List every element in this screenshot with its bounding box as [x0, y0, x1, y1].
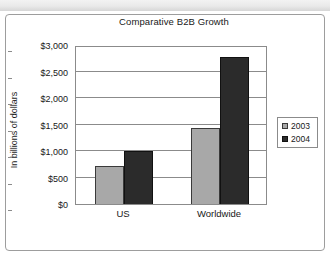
y-axis-tick-label: $0 [12, 200, 68, 210]
y-axis-tick-label: $2,000 [12, 94, 68, 104]
y-axis-tick-mark [8, 78, 12, 79]
bar-us-2004[interactable] [124, 151, 153, 204]
chart-title: Comparative B2B Growth [0, 16, 330, 27]
legend-label-2003: 2003 [291, 122, 310, 131]
y-axis-tick-mark [8, 131, 12, 132]
x-axis-tick-label: US [116, 208, 129, 219]
bar-worldwide-2004[interactable] [220, 57, 249, 204]
y-axis-tick-label: $500 [12, 174, 68, 184]
y-axis-tick-mark [8, 51, 12, 52]
legend-swatch-2003 [282, 123, 288, 129]
bar-group [76, 47, 172, 204]
y-axis-tick-label: $3,000 [12, 41, 68, 51]
x-axis-tick-label: Worldwide [197, 208, 241, 219]
y-axis-tick-label: $1,000 [12, 147, 68, 157]
y-axis-tick-label: $1,500 [12, 121, 68, 131]
y-axis-tick-mark [8, 104, 12, 105]
y-axis-tick-mark [8, 210, 12, 211]
chart-title-text: Comparative B2B Growth [101, 16, 229, 27]
legend-item-2004[interactable]: 2004 [282, 135, 314, 144]
legend-label-2004: 2004 [291, 135, 310, 144]
bar-group [172, 47, 268, 204]
chart-legend: 20032004 [277, 117, 318, 148]
screenshot-root: Comparative B2B Growth In billions of do… [0, 0, 330, 256]
y-axis-tick-mark [8, 184, 12, 185]
legend-swatch-2004 [282, 136, 288, 142]
bar-us-2003[interactable] [95, 166, 124, 204]
bar-worldwide-2003[interactable] [191, 128, 220, 204]
legend-item-2003[interactable]: 2003 [282, 122, 314, 131]
y-axis-tick-label: $2,500 [12, 68, 68, 78]
y-axis-tick-mark [8, 157, 12, 158]
cut-off-toolbar-strip [0, 0, 330, 11]
bars-layer [76, 47, 266, 204]
plot-area [75, 46, 267, 205]
